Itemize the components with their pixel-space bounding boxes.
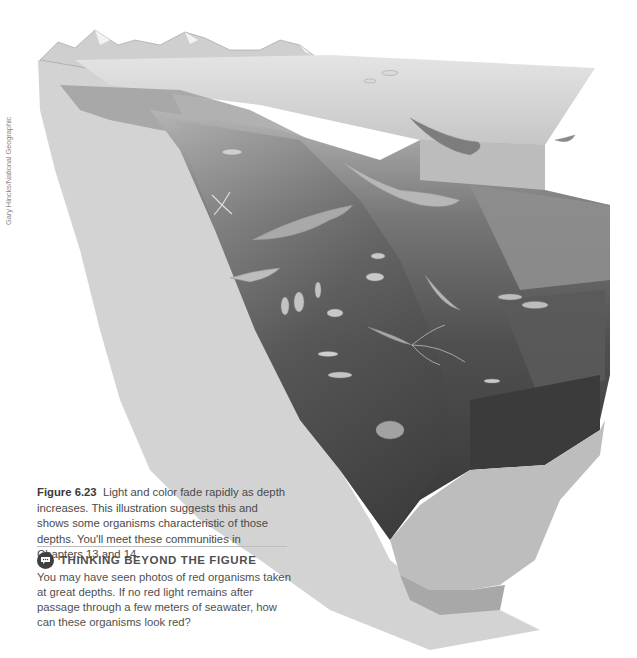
anglerfish [376, 421, 404, 439]
photo-credit: Gary Hincks/National Geographic [4, 55, 18, 225]
dolphin [382, 71, 398, 76]
credit-text: Gary Hincks/National Geographic [4, 117, 13, 225]
fish [222, 149, 242, 155]
thinking-beyond-header: THINKING BEYOND THE FIGURE [37, 550, 256, 570]
thinking-beyond-question: You may have seen photos of red organism… [37, 570, 293, 630]
figure-label: Figure 6.23 [37, 486, 97, 498]
fish [371, 253, 385, 259]
sea-pen [315, 282, 321, 298]
sea-pen [281, 297, 289, 315]
fish [484, 379, 500, 383]
sea-cucumber [327, 309, 343, 317]
sea-pen [294, 292, 304, 312]
speech-bubble-icon [37, 552, 54, 569]
fish [318, 352, 338, 357]
fish [328, 372, 352, 378]
caption-divider [37, 546, 287, 547]
dolphin [364, 79, 376, 83]
lanternfish [498, 294, 522, 300]
lanternfish [522, 302, 548, 309]
thinking-beyond-title: THINKING BEYOND THE FIGURE [60, 554, 256, 566]
shark [555, 135, 575, 142]
fish [366, 273, 384, 281]
